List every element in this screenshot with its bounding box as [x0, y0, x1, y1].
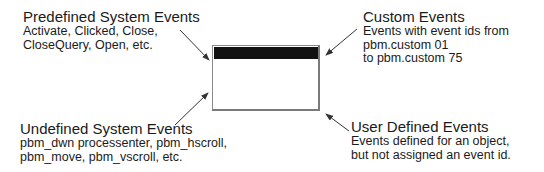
arrows-layer: [0, 0, 544, 172]
arrow-user-defined-icon: [326, 114, 349, 131]
arrow-undefined-icon: [175, 93, 208, 125]
arrow-custom-icon: [326, 29, 357, 55]
arrow-predefined-icon: [180, 30, 209, 60]
